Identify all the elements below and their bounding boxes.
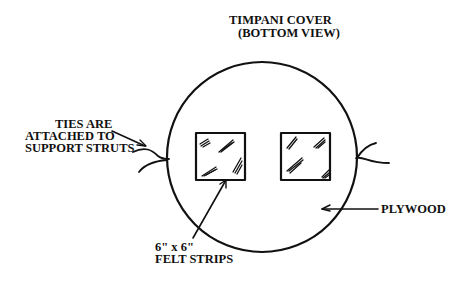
ties-label-line-3: SUPPORT STRUTS — [25, 141, 134, 155]
felt-pointer-arrow — [193, 180, 226, 238]
plywood-pointer-arrow — [322, 205, 378, 211]
felt-label-line-2: FELT STRIPS — [155, 252, 233, 266]
tie-right-lower — [356, 158, 389, 163]
felt-strip-left — [196, 133, 245, 180]
felt-strip-right — [281, 133, 330, 180]
felt-hatching-right — [287, 137, 329, 178]
plywood-label: PLYWOOD — [381, 202, 446, 216]
tie-right-upper — [357, 143, 376, 158]
title-line-1: TIMPANI COVER — [229, 13, 333, 27]
tie-left-lower — [139, 160, 167, 172]
timpani-cover-diagram: TIMPANI COVER (BOTTOM VIEW) TIES ARE ATT… — [0, 0, 463, 282]
felt-hatching-left — [200, 139, 242, 176]
tie-left-upper — [133, 149, 169, 159]
title-line-2: (BOTTOM VIEW) — [238, 26, 340, 40]
